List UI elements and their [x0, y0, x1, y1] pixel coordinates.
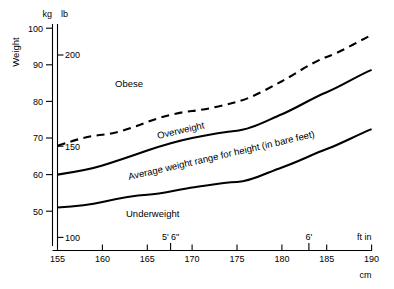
x-ticks-cm — [58, 245, 372, 251]
x-tick-label-170: 170 — [185, 254, 200, 264]
y-tick-label-kg-80: 80 — [33, 97, 43, 107]
y-tick-label-kg-100: 100 — [28, 24, 43, 34]
band-label-underweight: Underweight — [126, 208, 180, 219]
x-ticks-feet — [171, 243, 309, 251]
y-tick-label-lb-200: 200 — [65, 50, 80, 60]
y-tick-label-kg-90: 90 — [33, 60, 43, 70]
underweight-threshold-line — [58, 129, 372, 207]
y-tick-label-lb-100: 100 — [65, 233, 80, 243]
x-tick-label-5ft6in: 5' 6" — [162, 232, 179, 242]
band-label-obese: Obese — [115, 78, 143, 89]
obese-threshold-line — [58, 35, 372, 146]
y-ticks-kg — [46, 28, 53, 211]
chart-svg: 100 90 80 70 60 50 200 150 100 kg lb Wei… — [0, 0, 394, 289]
y-axis-title: Weight — [10, 37, 21, 67]
x-tick-label-185: 185 — [319, 254, 334, 264]
y-unit-label-kg: kg — [42, 9, 52, 19]
x-tick-label-180: 180 — [274, 254, 289, 264]
x-tick-label-160: 160 — [95, 254, 110, 264]
x-tick-label-190: 190 — [364, 254, 379, 264]
x-unit-label-ftin: ft in — [357, 232, 372, 242]
y-tick-label-kg-60: 60 — [33, 170, 43, 180]
x-tick-label-155: 155 — [50, 254, 65, 264]
x-unit-label-cm: cm — [360, 270, 372, 280]
band-label-average-range: Average weight range for height (in bare… — [127, 128, 316, 182]
y-tick-label-lb-150: 150 — [65, 142, 80, 152]
x-tick-label-175: 175 — [229, 254, 244, 264]
y-tick-label-kg-50: 50 — [33, 207, 43, 217]
y-unit-label-lb: lb — [61, 9, 68, 19]
weight-height-chart: 100 90 80 70 60 50 200 150 100 kg lb Wei… — [0, 0, 394, 289]
x-tick-label-165: 165 — [140, 254, 155, 264]
y-tick-label-kg-70: 70 — [33, 133, 43, 143]
x-tick-label-6ft: 6' — [306, 232, 313, 242]
